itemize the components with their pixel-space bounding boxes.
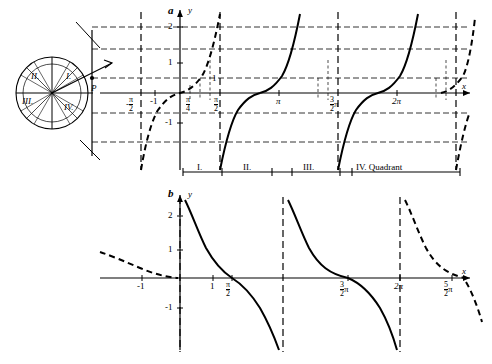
frac-num: π (214, 96, 218, 104)
panel-b-xtick-1: 1 (210, 282, 215, 291)
unit-circle-point-p: P (91, 84, 97, 93)
figure-svg (0, 0, 492, 364)
frac-den: 2 (129, 104, 133, 113)
unit-circle-quadrant-1: I. (66, 72, 71, 81)
panel-a-ytick-1: 1 (168, 58, 173, 67)
circle-to-plot-leaders (92, 27, 470, 142)
panel-a-xtick-3-over-2-pi: 32π (330, 96, 339, 114)
pi-suffix: π (448, 284, 453, 294)
panel-a-xtick-minus-pi-over-2: -π2 (126, 96, 133, 114)
panel-b-xtick-minus1: -1 (137, 282, 145, 291)
panel-a-xtick-pi-over-4: π4 (186, 96, 190, 114)
panel-b-xtick-3-over-2-pi: 32π (340, 281, 349, 299)
panel-a-xtick-minus1: -1 (150, 97, 158, 106)
panel-a-xtick-pi-over-2: π2 (214, 96, 218, 114)
frac-num: π (129, 96, 133, 104)
pi-suffix: π (344, 284, 349, 294)
unit-circle-quadrant-4: IV. (64, 103, 74, 112)
panel-b-ytick-1: 1 (168, 245, 173, 254)
frac-num: π (186, 96, 190, 104)
panel-b-plot (100, 195, 482, 352)
panel-b-xtick-2pi: 2π (394, 282, 403, 291)
panel-b-y-axis-label: y (188, 190, 192, 199)
frac-den: 2 (226, 289, 230, 298)
unit-circle-diagram (16, 22, 112, 160)
frac-den: 4 (186, 104, 190, 113)
panel-a-x-axis-label: x (462, 82, 466, 91)
panel-a-quadrant-1: I. (197, 163, 202, 172)
panel-a-xtick-2pi: 2π (392, 97, 401, 106)
frac-den: 2 (214, 104, 218, 113)
panel-b-ytick-2: 2 (168, 211, 173, 220)
panel-a-xtick-pi: π (276, 97, 281, 106)
panel-a-ytick-minus1: -1 (165, 118, 173, 127)
unit-circle-quadrant-3: III. (22, 97, 33, 106)
panel-b-xtick-5-over-2-pi: 52π (444, 281, 453, 299)
figure-canvas: I. II. III. IV. P a y x 2 1 -1 -1 π 2π 1… (0, 0, 492, 364)
panel-a-quadrant-2: II. (243, 163, 251, 172)
panel-b-tag: b (168, 188, 174, 199)
panel-a-ytick-2: 2 (168, 22, 173, 31)
pi-suffix: π (334, 99, 339, 109)
panel-a-plot (100, 10, 475, 176)
unit-circle-quadrant-2: II. (31, 72, 39, 81)
panel-a-small-one: 1 (212, 74, 217, 83)
quadrant-bar (183, 168, 460, 176)
panel-a-y-axis-label: y (188, 6, 192, 15)
panel-b-xtick-pi-over-2: π2 (226, 281, 230, 299)
panel-a-quadrant-4: IV. Quadrant (356, 163, 402, 172)
panel-b-ytick-minus1: -1 (165, 303, 173, 312)
frac-num: π (226, 281, 230, 289)
panel-a-tag: a (168, 5, 174, 16)
panel-b-x-axis-label: x (462, 267, 466, 276)
panel-a-quadrant-3: III. (303, 163, 314, 172)
